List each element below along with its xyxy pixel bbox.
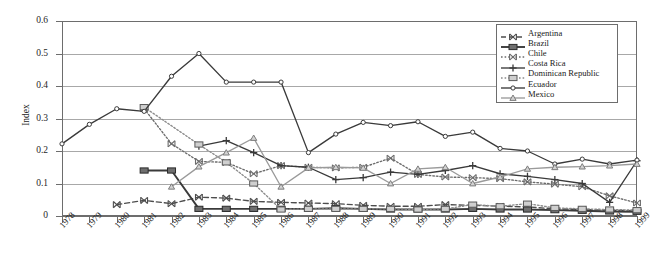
gridline <box>63 184 636 185</box>
y-axis-tick-label: 0.3 <box>8 114 48 124</box>
light-square-icon <box>500 69 526 79</box>
gridline <box>63 151 636 152</box>
plus-icon <box>500 59 526 69</box>
legend-label: Mexico <box>526 90 554 99</box>
legend-label: Ecuador <box>526 80 557 89</box>
legend-item-chile[interactable]: Chile <box>500 48 613 58</box>
y-axis-tick-label: 0 <box>8 211 48 221</box>
legend-label: Dominican Republic <box>526 69 599 78</box>
y-axis-tick-label: 0.6 <box>8 16 48 26</box>
legend-item-costa-rica[interactable]: Costa Rica <box>500 59 613 69</box>
legend-label: Argentina <box>526 29 562 38</box>
legend-label: Brazil <box>526 39 549 48</box>
gridline <box>63 119 636 120</box>
chart-legend: ArgentinaBrazilChileCosta RicaDominican … <box>496 24 618 103</box>
legend-item-mexico[interactable]: Mexico <box>500 89 613 99</box>
x-bowtie-icon <box>500 28 526 38</box>
legend-item-argentina[interactable]: Argentina <box>500 28 613 38</box>
triangle-icon <box>500 89 526 99</box>
legend-label: Chile <box>526 49 547 58</box>
legend-label: Costa Rica <box>526 59 565 68</box>
x-axis-tick-label: 1978 <box>58 211 77 230</box>
y-axis-tick-label: 0.5 <box>8 49 48 59</box>
legend-item-brazil[interactable]: Brazil <box>500 38 613 48</box>
filled-square-icon <box>500 38 526 48</box>
y-axis-tick-label: 0.2 <box>8 146 48 156</box>
y-axis-tick-label: 0.1 <box>8 179 48 189</box>
open-circle-icon <box>500 79 526 89</box>
legend-item-ecuador[interactable]: Ecuador <box>500 79 613 89</box>
x-bowtie-icon <box>500 48 526 58</box>
y-axis-tick-label: 0.4 <box>8 81 48 91</box>
legend-item-dominican-republic[interactable]: Dominican Republic <box>500 69 613 79</box>
